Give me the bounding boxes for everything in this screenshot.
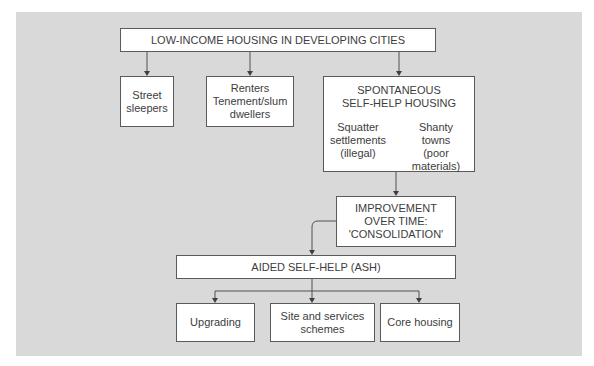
node-street-sleepers-label: Street sleepers: [126, 89, 168, 115]
node-renters-label: Renters Tenement/slum dwellers: [213, 82, 288, 121]
node-upgrading-label: Upgrading: [190, 316, 241, 329]
node-site-and-services: Site and services schemes: [270, 303, 375, 342]
node-core-housing-label: Core housing: [387, 316, 452, 329]
node-improvement-label: IMPROVEMENT OVER TIME: 'CONSOLIDATION': [349, 202, 443, 241]
node-spontaneous-label: SPONTANEOUS SELF-HELP HOUSING: [342, 84, 456, 110]
node-ash-label: AIDED SELF-HELP (ASH): [251, 261, 380, 274]
node-core-housing: Core housing: [380, 303, 460, 342]
connector-improvement-ash: [312, 221, 336, 251]
sub-node-squatter-settlements: Squatter settlements (illegal): [328, 121, 388, 160]
root-node-label: LOW-INCOME HOUSING IN DEVELOPING CITIES: [151, 34, 405, 47]
root-node: LOW-INCOME HOUSING IN DEVELOPING CITIES: [120, 28, 436, 52]
node-street-sleepers: Street sleepers: [120, 76, 174, 127]
node-upgrading: Upgrading: [176, 303, 255, 342]
sub-node-shanty-towns: Shanty towns (poor materials): [398, 121, 474, 173]
node-renters: Renters Tenement/slum dwellers: [206, 76, 294, 127]
node-improvement-consolidation: IMPROVEMENT OVER TIME: 'CONSOLIDATION': [336, 196, 456, 247]
node-aided-self-help: AIDED SELF-HELP (ASH): [176, 255, 456, 279]
node-site-services-label: Site and services schemes: [281, 310, 365, 336]
